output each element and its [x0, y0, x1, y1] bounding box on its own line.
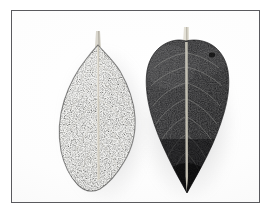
specimen-left-leaf [48, 29, 148, 199]
photo-plate [12, 11, 259, 202]
figure-root [0, 0, 274, 216]
figure-frame [11, 10, 260, 203]
right-leaf-lamina [134, 27, 238, 201]
specimen-right-leaf [134, 27, 238, 201]
left-leaf-lamina [48, 29, 148, 199]
